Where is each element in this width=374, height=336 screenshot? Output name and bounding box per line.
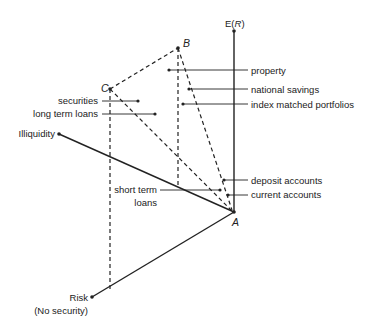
dot-property [167, 68, 170, 71]
dot-b [176, 46, 180, 50]
risk-axis [92, 212, 234, 297]
label-long-term-loans: long term loans [33, 108, 98, 119]
label-point-b: B [183, 37, 190, 49]
dot-index-matched [181, 102, 184, 105]
label-er: E(R) [225, 18, 245, 29]
label-illiquidity: Illiquidity [19, 128, 56, 139]
label-short-term-loans-1: short term [114, 184, 157, 195]
dot-national-savings [187, 87, 190, 90]
label-index-matched: index matched portfolios [251, 99, 354, 110]
dashed-c-b [110, 48, 178, 89]
risk-return-diagram: E(R) Illiquidity Risk (No security) A B … [0, 0, 374, 336]
label-risk-sub: (No security) [34, 305, 88, 316]
dot-a [232, 210, 236, 214]
dot-c [108, 87, 112, 91]
dot-long-term-loans [153, 112, 156, 115]
dot-illiquidity [57, 132, 61, 136]
label-point-c: C [101, 82, 109, 94]
label-property: property [251, 65, 286, 76]
dot-deposit-accounts [222, 178, 225, 181]
dot-securities [136, 99, 139, 102]
dashed-b-a [178, 48, 232, 210]
label-point-a: A [231, 216, 239, 228]
label-risk: Risk [70, 292, 89, 303]
dot-er [232, 29, 236, 33]
label-deposit-accounts: deposit accounts [251, 175, 323, 186]
label-securities: securities [58, 95, 98, 106]
dot-risk [90, 295, 94, 299]
label-current-accounts: current accounts [251, 189, 321, 200]
label-national-savings: national savings [251, 84, 319, 95]
label-short-term-loans-2: loans [134, 197, 157, 208]
dot-current-accounts [226, 193, 229, 196]
dot-short-term-loans [218, 188, 221, 191]
